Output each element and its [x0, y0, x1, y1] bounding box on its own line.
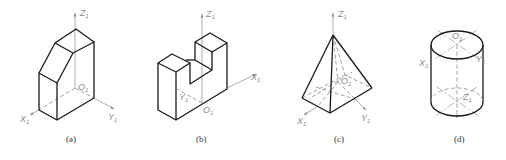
figure-b: Z1 X1 Y1 O1 (b)	[158, 9, 260, 144]
label-o1-b: O1	[203, 105, 213, 116]
label-x1-a: X1	[19, 114, 29, 125]
solid-a	[39, 29, 94, 120]
axes-a	[30, 13, 114, 115]
figure-c: Z1 O1 X1 Y1 (c)	[296, 9, 372, 144]
label-y1-a: Y1	[108, 112, 117, 123]
isometric-figures: Z1 O1 X1 Y1 (a) Z1 X1 Y1 O1 (	[0, 0, 506, 160]
solid-b	[158, 33, 227, 120]
caption-d: (d)	[454, 134, 465, 144]
axes-b	[177, 14, 256, 103]
label-z1-a: Z1	[79, 8, 89, 19]
label-z1-c: Z1	[337, 9, 347, 20]
caption-c: (c)	[334, 134, 344, 144]
label-o1-a: O1	[78, 82, 88, 93]
label-y1-c: Y1	[361, 113, 370, 124]
caption-b: (b)	[196, 134, 207, 144]
axes-d	[434, 30, 480, 118]
caption-a: (a)	[66, 134, 76, 144]
label-z1-d: Z1	[462, 92, 472, 103]
axes-c	[304, 13, 366, 115]
label-x1-b: X1	[250, 72, 260, 83]
label-y1-d: Y1	[476, 54, 485, 65]
label-y1-b: Y1	[179, 92, 188, 103]
label-x1-d: X1	[418, 58, 428, 69]
label-o1-d: O1	[452, 31, 462, 42]
label-z1-b: Z1	[205, 9, 215, 20]
figure-a: Z1 O1 X1 Y1 (a)	[19, 8, 117, 144]
label-x1-c: X1	[296, 116, 306, 127]
figure-d: O1 X1 Y1 Z1 (d)	[418, 30, 485, 144]
